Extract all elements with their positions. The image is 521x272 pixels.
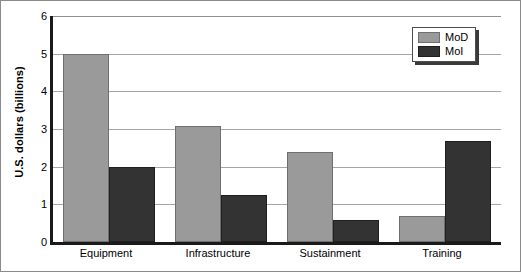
- bar-mod-infrastructure: [175, 126, 221, 242]
- y-axis-title: U.S. dollars (billions): [10, 1, 28, 243]
- legend-swatch-moi: [418, 46, 440, 57]
- bar-group: [165, 16, 277, 242]
- bar-moi-infrastructure: [221, 195, 267, 242]
- y-tick-label: 2: [27, 161, 47, 172]
- y-tick-label: 0: [27, 237, 47, 248]
- y-tick-label: 4: [27, 86, 47, 97]
- legend-swatch-mod: [418, 32, 440, 43]
- y-tick-label: 5: [27, 48, 47, 59]
- bar-moi-sustainment: [333, 220, 379, 242]
- bar-moi-equipment: [109, 167, 155, 242]
- legend-label: MoD: [445, 32, 468, 43]
- chart-legend: MoDMoI: [412, 27, 476, 62]
- x-tick-label: Sustainment: [299, 247, 360, 259]
- legend-item-mod: MoD: [418, 32, 468, 43]
- bar-group: [53, 16, 165, 242]
- y-tick-label: 3: [27, 124, 47, 135]
- legend-label: MoI: [445, 46, 463, 57]
- y-tick-label: 6: [27, 11, 47, 22]
- x-axis-tick-labels: EquipmentInfrastructureSustainmentTraini…: [50, 247, 498, 269]
- bar-mod-equipment: [63, 54, 109, 242]
- x-tick-label: Equipment: [80, 247, 133, 259]
- x-tick-label: Infrastructure: [186, 247, 251, 259]
- bar-moi-training: [445, 141, 491, 242]
- y-tick-label: 1: [27, 199, 47, 210]
- bar-group: [277, 16, 389, 242]
- x-tick-label: Training: [422, 247, 461, 259]
- bar-mod-sustainment: [287, 152, 333, 242]
- bar-mod-training: [399, 216, 445, 242]
- legend-item-moi: MoI: [418, 46, 468, 57]
- bar-chart-figure: U.S. dollars (billions) 0123456 Equipmen…: [0, 0, 521, 272]
- y-axis-tick-labels: 0123456: [27, 1, 47, 272]
